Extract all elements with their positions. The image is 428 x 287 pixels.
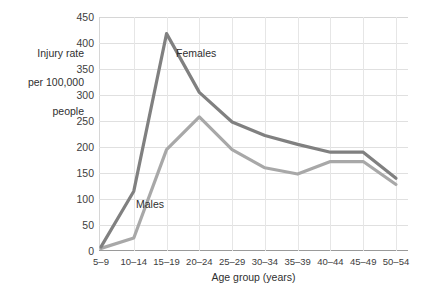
series-label-females: Females	[176, 47, 216, 59]
y-axis-tick-label: 450	[54, 12, 94, 22]
y-axis-tick-label: 300	[54, 90, 94, 100]
x-axis-tick-label: 50–54	[373, 256, 419, 267]
series-line-females	[101, 34, 396, 247]
y-axis-tick-label: 150	[54, 168, 94, 178]
y-axis-tick-label: 200	[54, 142, 94, 152]
y-axis-tick-label: 250	[54, 116, 94, 126]
y-axis-tick-label: 100	[54, 194, 94, 204]
series-lines	[99, 17, 408, 251]
y-axis-tick-label: 350	[54, 64, 94, 74]
series-label-males: Males	[136, 198, 164, 210]
x-axis-title: Age group (years)	[99, 271, 408, 283]
y-axis-tick-label: 400	[54, 38, 94, 48]
line-chart: Injury rate per 100,000 people ) 0501001…	[0, 0, 428, 287]
y-axis-tick-label: 0	[54, 246, 94, 256]
y-axis-title-line-2: per 100,000	[28, 76, 84, 88]
y-axis-tick-label: 50	[54, 220, 94, 230]
